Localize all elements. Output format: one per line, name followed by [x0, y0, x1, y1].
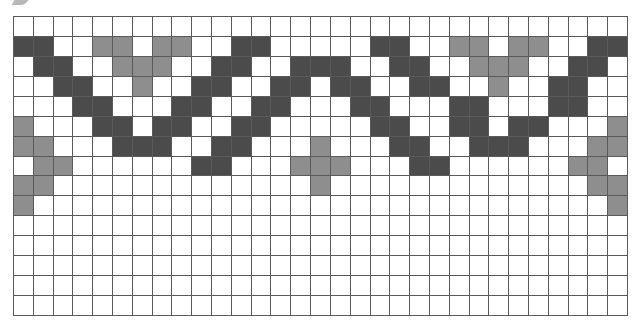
grid-cell-white	[290, 36, 310, 56]
grid-cell-light	[310, 136, 330, 156]
grid-cell-white	[191, 295, 211, 315]
grid-cell-white	[152, 235, 172, 255]
grid-cell-white	[568, 255, 588, 275]
grid-cell-white	[33, 76, 53, 96]
grid-cell-white	[310, 76, 330, 96]
grid-cell-dark	[548, 76, 568, 96]
grid-cell-dark	[72, 96, 92, 116]
grid-cell-white	[231, 255, 251, 275]
grid-cell-white	[409, 215, 429, 235]
grid-cell-white	[72, 295, 92, 315]
grid-cell-white	[350, 195, 370, 215]
grid-cell-white	[92, 275, 112, 295]
grid-cell-light	[33, 136, 53, 156]
grid-cell-white	[389, 96, 409, 116]
grid-cell-white	[607, 295, 627, 315]
grid-cell-dark	[290, 76, 310, 96]
grid-cell-white	[290, 295, 310, 315]
grid-cell-white	[429, 136, 449, 156]
grid-cell-white	[409, 16, 429, 36]
grid-cell-dark	[270, 96, 290, 116]
grid-cell-white	[528, 255, 548, 275]
grid-cell-dark	[370, 116, 390, 136]
grid-cell-white	[33, 96, 53, 116]
grid-cell-light	[310, 175, 330, 195]
grid-cell-dark	[152, 116, 172, 136]
grid-cell-white	[350, 215, 370, 235]
grid-cell-white	[270, 175, 290, 195]
grid-cell-white	[270, 16, 290, 36]
grid-cell-white	[330, 275, 350, 295]
grid-cell-white	[13, 215, 33, 235]
grid-cell-white	[92, 295, 112, 315]
grid-cell-white	[449, 156, 469, 176]
grid-cell-white	[488, 96, 508, 116]
grid-cell-white	[409, 96, 429, 116]
grid-cell-white	[171, 56, 191, 76]
grid-cell-white	[112, 156, 132, 176]
grid-cell-white	[231, 76, 251, 96]
grid-cell-dark	[72, 76, 92, 96]
grid-cell-white	[389, 76, 409, 96]
grid-cell-white	[112, 275, 132, 295]
grid-cell-dark	[469, 116, 489, 136]
grid-cell-white	[548, 16, 568, 36]
grid-cell-white	[488, 195, 508, 215]
grid-cell-white	[251, 16, 271, 36]
grid-cell-white	[528, 295, 548, 315]
grid-cell-white	[469, 235, 489, 255]
grid-cell-light	[528, 36, 548, 56]
grid-cell-white	[112, 76, 132, 96]
grid-cell-white	[508, 175, 528, 195]
grid-cell-white	[231, 156, 251, 176]
grid-cell-dark	[211, 76, 231, 96]
grid-cell-white	[231, 235, 251, 255]
grid-cell-white	[211, 215, 231, 235]
grid-cell-dark	[568, 76, 588, 96]
grid-cell-white	[171, 16, 191, 36]
grid-cell-white	[290, 255, 310, 275]
grid-cell-dark	[152, 136, 172, 156]
grid-cell-white	[370, 195, 390, 215]
grid-cell-white	[568, 195, 588, 215]
grid-cell-dark	[370, 96, 390, 116]
grid-cell-white	[350, 295, 370, 315]
grid-cell-white	[389, 215, 409, 235]
grid-cell-white	[132, 16, 152, 36]
grid-cell-light	[607, 175, 627, 195]
grid-cell-white	[231, 96, 251, 116]
grid-cell-white	[449, 235, 469, 255]
grid-cell-white	[449, 275, 469, 295]
grid-cell-white	[191, 195, 211, 215]
grid-cell-white	[13, 235, 33, 255]
grid-cell-white	[548, 215, 568, 235]
grid-cell-light	[469, 36, 489, 56]
grid-cell-white	[251, 275, 271, 295]
grid-cell-dark	[33, 36, 53, 56]
grid-cell-white	[72, 195, 92, 215]
grid-cell-white	[72, 136, 92, 156]
grid-cell-light	[53, 156, 73, 176]
grid-cell-white	[548, 275, 568, 295]
grid-cell-white	[152, 16, 172, 36]
grid-cell-white	[191, 136, 211, 156]
grid-cell-white	[53, 16, 73, 36]
grid-cell-white	[92, 16, 112, 36]
grid-cell-white	[270, 215, 290, 235]
grid-cell-white	[350, 116, 370, 136]
grid-cell-light	[310, 156, 330, 176]
grid-cell-white	[429, 56, 449, 76]
grid-cell-white	[53, 295, 73, 315]
grid-cell-dark	[568, 56, 588, 76]
grid-cell-light	[587, 156, 607, 176]
grid-cell-white	[508, 255, 528, 275]
grid-cell-white	[92, 136, 112, 156]
grid-cell-white	[587, 255, 607, 275]
grid-cell-white	[587, 16, 607, 36]
grid-cell-white	[409, 235, 429, 255]
grid-cell-white	[488, 16, 508, 36]
grid-cell-white	[607, 235, 627, 255]
grid-cell-white	[607, 16, 627, 36]
grid-cell-white	[389, 16, 409, 36]
grid-cell-white	[508, 16, 528, 36]
